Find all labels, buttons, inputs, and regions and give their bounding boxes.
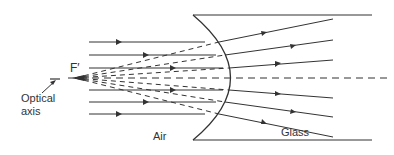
- focal-point-label: F′: [70, 62, 80, 74]
- air-label: Air: [153, 130, 166, 142]
- optical-axis-label-line1: Optical: [21, 92, 55, 104]
- focal-point-arrow-icon: [72, 75, 84, 81]
- diverging-lens-diagram: [0, 0, 394, 155]
- optical-axis-label-line2: axis: [21, 105, 41, 117]
- glass-label: Glass: [281, 126, 309, 138]
